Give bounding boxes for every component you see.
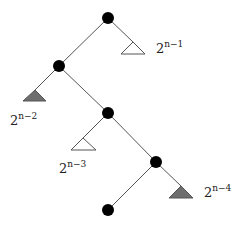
subtree-triangles [23, 42, 193, 198]
edge-n2-n3 [59, 66, 108, 113]
subtree-triangle-white-3 [71, 138, 96, 150]
edge-n4-n5 [108, 162, 156, 210]
tree-node-3 [102, 107, 114, 119]
subtree-label-3: 2n−3 [59, 159, 87, 176]
edge-n3-n4 [108, 113, 156, 162]
subtree-triangle-white-1 [121, 42, 145, 54]
edge-n1-n2 [59, 18, 108, 66]
tree-nodes [53, 12, 162, 216]
subtree-label-1: 2n−1 [156, 39, 183, 56]
subtree-label-4: 2n−4 [204, 183, 232, 200]
subtree-triangle-gray-4 [169, 186, 193, 198]
subtree-label-2: 2n−2 [10, 111, 37, 128]
subtree-triangle-gray-2 [23, 90, 46, 101]
binary-tree-diagram: 2n−1 2n−2 2n−3 2n−4 [0, 0, 242, 229]
tree-node-5 [102, 204, 114, 216]
tree-node-2 [53, 60, 65, 72]
tree-node-1 [102, 12, 114, 24]
tree-node-4 [150, 156, 162, 168]
